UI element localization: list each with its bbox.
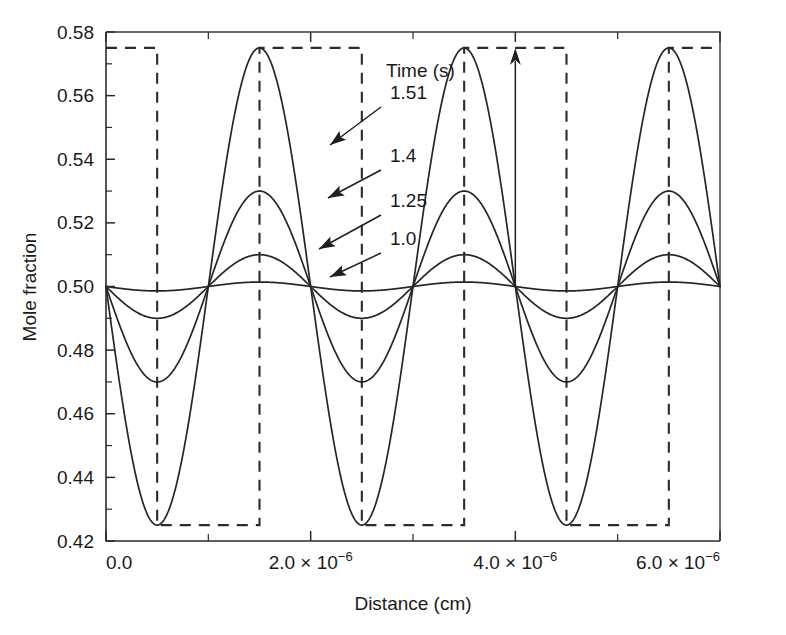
x-tick-label-text-2: 4.0 × 10−6 xyxy=(473,549,557,573)
y-tick-label-8: 0.58 xyxy=(57,22,94,43)
y-tick-label-7: 0.56 xyxy=(57,85,94,106)
y-tick-label-2: 0.46 xyxy=(57,403,94,424)
y-tick-label-4: 0.50 xyxy=(57,276,94,297)
y-axis-title: Mole fraction xyxy=(19,233,40,342)
legend-title: Time (s) xyxy=(386,60,455,81)
y-tick-label-3: 0.48 xyxy=(57,340,94,361)
arrow-1-51-label: 1.51 xyxy=(390,82,427,103)
figure-container: 1.511.41.251.0 0.02.0 × 10−64.0 × 10−66.… xyxy=(0,0,786,635)
y-tick-label-5: 0.52 xyxy=(57,212,94,233)
x-tick-label-1: 2.0 × 10−6 xyxy=(269,549,353,573)
arrow-1-4-label: 1.4 xyxy=(390,145,417,166)
arrow-1-51-head xyxy=(330,131,346,145)
x-tick-label-text-3: 6.0 × 10−6 xyxy=(636,549,720,573)
x-tick-label-3: 6.0 × 10−6 xyxy=(636,549,720,573)
arrow-1-4-head xyxy=(328,186,345,198)
annotations-group: 1.511.41.251.0 xyxy=(319,48,521,287)
y-tick-labels: 0.420.440.460.480.500.520.540.560.58 xyxy=(57,22,94,552)
y-tick-label-6: 0.54 xyxy=(57,149,94,170)
arrow-1-0-head xyxy=(330,265,347,277)
x-tick-label-2: 4.0 × 10−6 xyxy=(473,549,557,573)
arrow-1-25-head xyxy=(319,236,336,249)
x-tick-labels: 0.02.0 × 10−64.0 × 10−66.0 × 10−6 xyxy=(106,549,720,573)
x-tick-label-text-1: 2.0 × 10−6 xyxy=(269,549,353,573)
x-axis-title: Distance (cm) xyxy=(354,593,471,614)
y-tick-label-1: 0.44 xyxy=(57,467,94,488)
data-series-group xyxy=(106,48,720,525)
arrow-1-0-label: 1.0 xyxy=(390,228,416,249)
y-tick-label-0: 0.42 xyxy=(57,531,94,552)
chart-canvas: 1.511.41.251.0 0.02.0 × 10−64.0 × 10−66.… xyxy=(0,0,786,635)
arrow-1-25-label: 1.25 xyxy=(390,190,427,211)
x-tick-label-text-0: 0.0 xyxy=(106,552,132,573)
x-tick-label-0: 0.0 xyxy=(106,552,132,573)
